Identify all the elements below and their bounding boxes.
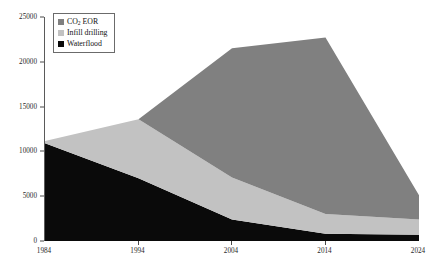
x-tick-label: 1994 [130,247,144,255]
legend-swatch-icon [58,30,64,36]
legend-swatch-icon [58,41,64,47]
y-tick-label: 25000 [19,13,37,21]
y-axis: 0500010000150002000025000 [0,0,44,270]
legend-label: Infill drilling [67,27,108,38]
y-tick-label: 20000 [19,58,37,66]
legend-label: Waterflood [67,38,102,49]
y-tick-label: 15000 [19,103,37,111]
x-tick-mark [231,241,232,245]
legend-swatch-icon [58,19,64,25]
x-tick-mark [138,241,139,245]
chart-figure: 0500010000150002000025000 Production (ba… [0,0,433,270]
x-tick-mark [325,241,326,245]
x-tick-label: 1984 [37,247,51,255]
legend-item-co2-eor: CO2 EOR [58,16,108,27]
legend-label: CO2 EOR [67,16,98,28]
x-tick-label: 2004 [224,247,238,255]
x-tick-label: 2014 [317,247,331,255]
y-tick-label: 5000 [23,192,37,200]
x-tick-label: 2024 [411,247,425,255]
y-tick-label: 0 [33,237,37,245]
y-tick-label: 10000 [19,147,37,155]
legend-item-waterflood: Waterflood [58,38,108,49]
legend-item-infill-drilling: Infill drilling [58,27,108,38]
chart-legend: CO2 EORInfill drillingWaterflood [53,13,115,53]
